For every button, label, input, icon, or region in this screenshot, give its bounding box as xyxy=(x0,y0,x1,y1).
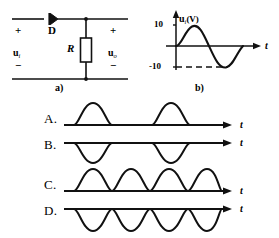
option-d-axis-label: t xyxy=(240,203,243,214)
y-tick-label-negative: -10 xyxy=(149,61,161,71)
answer-options: A. t B. t C. t D. xyxy=(0,99,279,238)
option-c-label: C. xyxy=(44,177,57,193)
option-b-label: B. xyxy=(44,137,57,153)
option-b-axis-arrow xyxy=(223,139,232,146)
option-d-waveform xyxy=(62,198,262,236)
rectifier-circuit-diagram: D R + ui − + uo − a) xyxy=(0,0,139,98)
caption-b: b) xyxy=(195,82,204,93)
option-c-axis-label: t xyxy=(240,185,243,196)
plus-sign-output: + xyxy=(110,25,116,36)
option-a-axis-label: t xyxy=(240,119,243,130)
resistor-icon xyxy=(81,38,92,62)
input-voltage-label: ui xyxy=(13,42,20,60)
x-axis-title: t xyxy=(265,40,268,51)
option-b-humps xyxy=(74,143,190,163)
x-axis-arrow xyxy=(253,43,261,49)
diode-label: D xyxy=(48,24,56,36)
option-b-axis-label: t xyxy=(240,137,243,148)
plus-sign-input: + xyxy=(15,25,21,36)
input-waveform-chart: 10 -10 ui(V) t b) xyxy=(140,0,279,98)
option-a[interactable]: A. t xyxy=(0,99,279,133)
y-tick-label-positive: 10 xyxy=(154,19,163,29)
option-d-humps xyxy=(74,209,222,231)
output-voltage-label: uo xyxy=(108,42,117,60)
option-d-label: D. xyxy=(44,203,57,219)
waveform-svg xyxy=(140,0,279,98)
minus-sign-output: − xyxy=(110,60,116,71)
option-c[interactable]: C. t xyxy=(0,165,279,199)
junction-dot-bottom xyxy=(84,77,88,81)
option-a-label: A. xyxy=(44,111,57,127)
junction-dot-top xyxy=(84,17,88,21)
option-a-humps xyxy=(74,103,190,125)
minus-sign-input: − xyxy=(15,60,21,71)
option-d[interactable]: D. t xyxy=(0,198,279,236)
caption-a: a) xyxy=(55,82,63,93)
option-c-waveform xyxy=(62,165,262,199)
option-b-waveform xyxy=(62,132,262,166)
option-c-axis-arrow xyxy=(223,187,232,194)
option-c-humps xyxy=(74,169,222,191)
resistor-label: R xyxy=(67,42,74,54)
option-a-waveform xyxy=(62,99,262,133)
option-a-axis-arrow xyxy=(223,121,232,128)
option-d-axis-arrow xyxy=(223,205,232,212)
y-axis-title: ui(V) xyxy=(179,8,199,26)
option-b[interactable]: B. t xyxy=(0,132,279,166)
